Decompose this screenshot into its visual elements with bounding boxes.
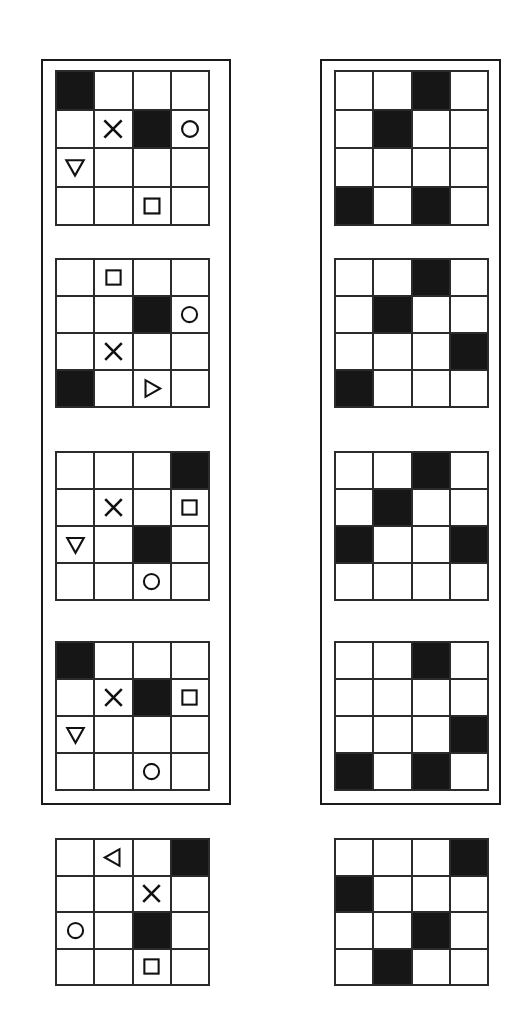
cell-r3-c1[interactable] [374, 950, 412, 987]
cell-r2-c2[interactable] [413, 717, 451, 754]
cell-r2-c2[interactable] [413, 913, 451, 950]
cell-r1-c0[interactable] [336, 680, 374, 717]
cell-r0-c3[interactable] [172, 72, 210, 111]
cell-r2-c2[interactable] [413, 334, 451, 371]
cell-r2-c0[interactable] [57, 334, 95, 371]
cell-r0-c0[interactable] [57, 643, 95, 680]
cell-r3-c0[interactable] [336, 564, 374, 601]
cell-r3-c3[interactable] [451, 754, 489, 791]
cell-r3-c3[interactable] [451, 371, 489, 408]
cell-r2-c1[interactable] [374, 527, 412, 564]
cell-r2-c3[interactable] [451, 527, 489, 564]
cell-r3-c3[interactable] [172, 371, 210, 408]
cell-r2-c2[interactable] [134, 527, 172, 564]
cell-r0-c3[interactable] [172, 453, 210, 490]
cell-r2-c2[interactable] [134, 334, 172, 371]
right-panel-2[interactable] [334, 258, 489, 408]
cell-r3-c0[interactable] [336, 950, 374, 987]
cell-r0-c0[interactable] [57, 72, 95, 111]
cell-r3-c3[interactable] [451, 950, 489, 987]
cell-r2-c0[interactable] [57, 149, 95, 188]
cell-r1-c0[interactable] [57, 490, 95, 527]
cell-r0-c2[interactable] [413, 453, 451, 490]
cell-r2-c1[interactable] [374, 717, 412, 754]
right-panel-3[interactable] [334, 451, 489, 601]
cell-r0-c1[interactable] [95, 453, 133, 490]
cell-r3-c2[interactable] [413, 754, 451, 791]
cell-r3-c0[interactable] [57, 754, 95, 791]
cell-r0-c2[interactable] [413, 72, 451, 111]
cell-r1-c1[interactable] [374, 877, 412, 914]
cell-r3-c0[interactable] [336, 188, 374, 227]
cell-r3-c0[interactable] [336, 754, 374, 791]
cell-r0-c2[interactable] [413, 643, 451, 680]
cell-r2-c2[interactable] [413, 149, 451, 188]
cell-r3-c2[interactable] [134, 371, 172, 408]
cell-r2-c3[interactable] [451, 717, 489, 754]
cell-r3-c0[interactable] [57, 950, 95, 987]
cell-r3-c1[interactable] [95, 950, 133, 987]
cell-r3-c3[interactable] [172, 950, 210, 987]
left-panel-3[interactable] [55, 451, 210, 601]
cell-r2-c0[interactable] [57, 913, 95, 950]
cell-r0-c1[interactable] [374, 72, 412, 111]
cell-r3-c1[interactable] [374, 188, 412, 227]
cell-r2-c1[interactable] [374, 913, 412, 950]
cell-r1-c3[interactable] [172, 490, 210, 527]
cell-r3-c3[interactable] [451, 564, 489, 601]
cell-r0-c3[interactable] [172, 840, 210, 877]
cell-r0-c1[interactable] [374, 453, 412, 490]
cell-r2-c0[interactable] [336, 527, 374, 564]
cell-r2-c2[interactable] [134, 913, 172, 950]
cell-r1-c2[interactable] [413, 490, 451, 527]
cell-r3-c1[interactable] [95, 371, 133, 408]
cell-r0-c2[interactable] [134, 260, 172, 297]
cell-r0-c1[interactable] [95, 643, 133, 680]
cell-r1-c3[interactable] [172, 297, 210, 334]
cell-r0-c3[interactable] [172, 643, 210, 680]
cell-r3-c0[interactable] [57, 188, 95, 227]
cell-r3-c3[interactable] [172, 564, 210, 601]
cell-r0-c3[interactable] [451, 453, 489, 490]
cell-r0-c3[interactable] [451, 643, 489, 680]
cell-r2-c0[interactable] [336, 149, 374, 188]
cell-r2-c3[interactable] [172, 149, 210, 188]
cell-r2-c0[interactable] [336, 913, 374, 950]
cell-r2-c3[interactable] [172, 913, 210, 950]
cell-r3-c3[interactable] [172, 754, 210, 791]
cell-r1-c1[interactable] [95, 877, 133, 914]
cell-r1-c1[interactable] [374, 490, 412, 527]
cell-r1-c0[interactable] [336, 877, 374, 914]
cell-r1-c3[interactable] [172, 877, 210, 914]
cell-r3-c1[interactable] [95, 754, 133, 791]
cell-r1-c0[interactable] [336, 297, 374, 334]
cell-r0-c1[interactable] [95, 840, 133, 877]
cell-r2-c3[interactable] [451, 334, 489, 371]
cell-r1-c3[interactable] [451, 297, 489, 334]
cell-r2-c1[interactable] [95, 149, 133, 188]
cell-r2-c1[interactable] [374, 334, 412, 371]
cell-r0-c0[interactable] [336, 453, 374, 490]
cell-r3-c1[interactable] [374, 754, 412, 791]
cell-r1-c1[interactable] [374, 111, 412, 150]
cell-r0-c2[interactable] [413, 260, 451, 297]
cell-r1-c2[interactable] [134, 877, 172, 914]
cell-r3-c1[interactable] [95, 564, 133, 601]
cell-r1-c0[interactable] [336, 490, 374, 527]
right-panel-4[interactable] [334, 641, 489, 791]
cell-r1-c1[interactable] [374, 297, 412, 334]
cell-r2-c0[interactable] [336, 717, 374, 754]
cell-r0-c2[interactable] [134, 72, 172, 111]
cell-r0-c0[interactable] [57, 840, 95, 877]
cell-r1-c3[interactable] [451, 877, 489, 914]
cell-r3-c2[interactable] [413, 564, 451, 601]
cell-r0-c0[interactable] [336, 643, 374, 680]
cell-r0-c2[interactable] [134, 643, 172, 680]
cell-r1-c3[interactable] [172, 680, 210, 717]
cell-r3-c2[interactable] [413, 188, 451, 227]
cell-r3-c2[interactable] [134, 564, 172, 601]
cell-r1-c2[interactable] [134, 680, 172, 717]
cell-r1-c1[interactable] [95, 111, 133, 150]
cell-r1-c1[interactable] [95, 297, 133, 334]
left-panel-1[interactable] [55, 70, 210, 226]
